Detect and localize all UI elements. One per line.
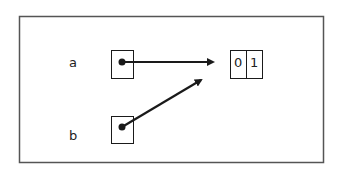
outer-frame — [20, 17, 324, 163]
array-cell-0: 0 — [234, 55, 242, 70]
pointer-arrow-b — [122, 80, 201, 127]
pointer-dot-a — [119, 59, 126, 66]
variable-label-a: a — [69, 55, 77, 70]
pointer-dot-b — [119, 124, 126, 131]
reference-diagram: a b 0 1 — [0, 0, 342, 171]
array-cell-1: 1 — [250, 55, 258, 70]
variable-label-b: b — [69, 128, 77, 143]
array-object: 0 1 — [231, 51, 263, 79]
